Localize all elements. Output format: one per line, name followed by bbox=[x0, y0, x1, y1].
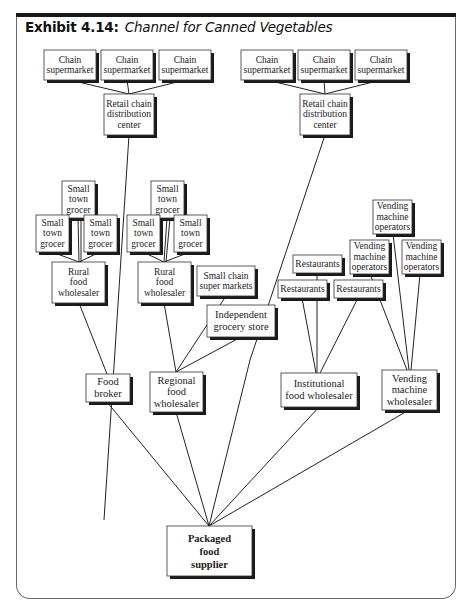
node-label: Rural bbox=[68, 267, 89, 277]
node-rcdc2: Retail chaindistributioncenter bbox=[300, 94, 353, 138]
node-vmo3: Vendingmachineoperators bbox=[402, 240, 444, 277]
node-cs1: Chainsupermarket bbox=[44, 50, 99, 83]
node-label: center bbox=[313, 120, 337, 130]
node-label: Institutional bbox=[294, 378, 345, 389]
node-label: broker bbox=[94, 388, 122, 399]
node-label: Chain bbox=[256, 55, 279, 65]
node-label: Vending bbox=[406, 241, 438, 251]
edge-line bbox=[107, 402, 209, 526]
node-scsm: Small chainsuper markets bbox=[197, 266, 258, 299]
node-label: Independent bbox=[215, 309, 267, 320]
node-label: food wholesaler bbox=[285, 390, 353, 401]
node-label: Chain bbox=[370, 55, 393, 65]
node-label: food bbox=[200, 546, 220, 557]
node-label: Chain bbox=[174, 55, 197, 65]
node-label: Small bbox=[67, 184, 90, 194]
edge-line bbox=[104, 135, 129, 520]
node-label: food bbox=[70, 277, 88, 287]
node-cs2: Chainsupermarket bbox=[101, 50, 156, 83]
node-label: machine bbox=[376, 212, 408, 222]
node-label: Rural bbox=[154, 267, 175, 277]
node-ifw: Institutionalfood wholesaler bbox=[281, 373, 360, 410]
node-label: town bbox=[181, 228, 200, 238]
node-label: town bbox=[134, 228, 153, 238]
node-rest2: Restaurants bbox=[278, 280, 330, 301]
edge-line bbox=[176, 337, 241, 372]
node-label: machine bbox=[405, 252, 437, 262]
node-stg3: Smalltowngrocer bbox=[84, 215, 120, 255]
node-label: distribution bbox=[107, 109, 151, 119]
node-stg5: Smalltowngrocer bbox=[127, 215, 163, 255]
node-label: grocer bbox=[88, 239, 113, 249]
node-label: Small bbox=[156, 184, 179, 194]
node-rfw1: Ruralfoodwholesaler bbox=[52, 262, 108, 306]
node-label: town bbox=[158, 194, 177, 204]
node-label: operators bbox=[375, 222, 411, 232]
node-rgfw: Regionalfoodwholesaler bbox=[150, 372, 206, 415]
edge-line bbox=[302, 298, 316, 373]
node-label: Vending bbox=[377, 201, 409, 211]
node-label: town bbox=[69, 194, 88, 204]
node-label: Small bbox=[179, 218, 202, 228]
node-label: Chain bbox=[59, 55, 82, 65]
node-label: supermarket bbox=[104, 65, 151, 75]
edge-line bbox=[209, 360, 250, 526]
node-rfw2: Ruralfoodwholesaler bbox=[138, 262, 194, 306]
edge-line bbox=[209, 410, 409, 526]
edge-line bbox=[411, 274, 420, 370]
node-cs6: Chainsupermarket bbox=[355, 50, 410, 83]
node-label: food bbox=[167, 386, 187, 397]
node-label: wholesaler bbox=[154, 398, 200, 409]
node-label: grocer bbox=[178, 239, 203, 249]
node-label: super markets bbox=[199, 281, 252, 291]
node-label: Small bbox=[132, 218, 155, 228]
node-igs: Independentgrocery store bbox=[207, 305, 278, 340]
node-label: Food bbox=[97, 376, 119, 387]
node-label: town bbox=[43, 228, 62, 238]
node-label: Small chain bbox=[203, 271, 248, 281]
node-label: Vending bbox=[392, 373, 428, 384]
node-vmo1: Vendingmachineoperators bbox=[373, 200, 415, 237]
node-label: operators bbox=[404, 262, 440, 272]
node-label: center bbox=[117, 120, 141, 130]
node-label: grocer bbox=[155, 205, 180, 215]
node-label: supermarket bbox=[162, 65, 209, 75]
node-label: operators bbox=[352, 262, 388, 272]
node-label: Regional bbox=[158, 375, 196, 386]
node-label: grocer bbox=[131, 239, 156, 249]
node-rest3: Restaurants bbox=[334, 280, 386, 301]
node-label: Chain bbox=[116, 55, 139, 65]
node-label: supermarket bbox=[244, 65, 291, 75]
node-cs3: Chainsupermarket bbox=[159, 50, 214, 83]
node-label: Retail chain bbox=[106, 99, 152, 109]
node-label: grocer bbox=[66, 205, 91, 215]
node-label: Retail chain bbox=[302, 99, 348, 109]
node-label: Restaurants bbox=[295, 259, 340, 269]
node-label: supermarket bbox=[358, 65, 405, 75]
node-cs4: Chainsupermarket bbox=[241, 50, 296, 83]
node-label: Chain bbox=[313, 55, 336, 65]
node-label: supermarket bbox=[47, 65, 94, 75]
node-rcdc1: Retail chaindistributioncenter bbox=[104, 94, 157, 138]
edge-line bbox=[209, 407, 319, 526]
edge-line bbox=[320, 298, 358, 373]
node-label: food bbox=[156, 277, 174, 287]
node-label: machine bbox=[392, 384, 428, 395]
edge-line bbox=[79, 303, 107, 374]
node-stg6: Smalltowngrocer bbox=[174, 215, 210, 255]
node-label: grocery store bbox=[213, 321, 268, 332]
node-label: grocer bbox=[40, 239, 65, 249]
node-label: supermarket bbox=[301, 65, 348, 75]
node-label: supplier bbox=[191, 559, 228, 570]
edge-line bbox=[164, 303, 176, 372]
node-label: distribution bbox=[303, 109, 347, 119]
node-label: wholesaler bbox=[387, 396, 433, 407]
node-label: wholesaler bbox=[144, 288, 186, 298]
node-stg2: Smalltowngrocer bbox=[36, 215, 72, 255]
node-pfs: Packagedfoodsupplier bbox=[167, 526, 255, 579]
node-label: Small bbox=[89, 218, 112, 228]
node-label: Packaged bbox=[188, 533, 231, 544]
node-label: Restaurants bbox=[280, 284, 325, 294]
node-label: Small bbox=[41, 218, 64, 228]
node-label: Vending bbox=[354, 241, 386, 251]
